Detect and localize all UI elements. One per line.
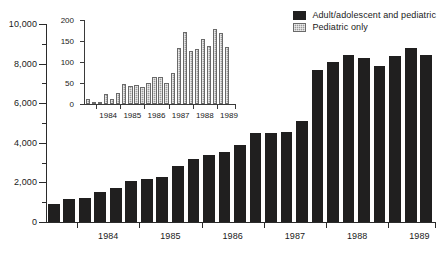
x-year-label: 1984 (98, 231, 118, 241)
y-tick-label: 6,000 (14, 98, 37, 108)
inset-x-tick (144, 105, 145, 109)
y-tick-major (39, 103, 46, 104)
main-bar-cell (248, 24, 264, 222)
legend-item: Pediatric only (293, 22, 436, 32)
inset-x-year-label: 1985 (123, 111, 141, 120)
bar (327, 62, 339, 222)
main-bar-cell (403, 24, 419, 222)
bar (312, 70, 324, 222)
bar (358, 58, 370, 222)
bar (48, 204, 60, 222)
bar (343, 55, 355, 222)
bar (265, 133, 277, 222)
x-year-label: 1986 (223, 231, 243, 241)
main-bar-cell (341, 24, 357, 222)
legend-swatch-adult-adolescent-pediatric (293, 11, 306, 20)
main-bar-cell (325, 24, 341, 222)
main-x-axis: 198419851986198719881989 (46, 222, 435, 256)
y-tick-major (39, 182, 46, 183)
bar (79, 198, 91, 222)
inset-y-tick (80, 41, 84, 42)
x-year-label: 1985 (160, 231, 180, 241)
bar (141, 179, 153, 222)
x-tick (435, 222, 436, 228)
x-tick (388, 222, 389, 228)
inset-x-year-label: 1988 (196, 111, 214, 120)
bar (250, 133, 262, 222)
inset-x-axis: 198419851986198719881989 (84, 105, 236, 123)
inset-x-year-label: 1984 (99, 111, 117, 120)
y-tick-major (39, 143, 46, 144)
bar (420, 55, 432, 222)
x-year-label: 1989 (409, 231, 429, 241)
inset-y-axis-ticks: 050100150200 (85, 20, 236, 104)
inset-y-tick-label: 50 (65, 79, 74, 88)
bar (281, 132, 293, 222)
x-tick (264, 222, 265, 228)
inset-y-tick-label: 150 (61, 37, 74, 46)
main-bar-cell (294, 24, 310, 222)
y-tick-label: 4,000 (14, 138, 37, 148)
y-tick-minor (42, 44, 46, 45)
y-tick-minor (42, 83, 46, 84)
x-tick (202, 222, 203, 228)
bar (203, 155, 215, 222)
x-tick (139, 222, 140, 228)
inset-x-year-label: 1986 (148, 111, 166, 120)
inset-y-tick (80, 83, 84, 84)
inset-x-tick (120, 105, 121, 109)
inset-y-tick-label: 0 (70, 100, 74, 109)
bar (94, 192, 106, 222)
main-bar-cell (418, 24, 434, 222)
legend-label: Adult/adolescent and pediatric (312, 10, 436, 20)
y-tick-major (39, 222, 46, 223)
x-year-label: 1988 (347, 231, 367, 241)
bar (374, 66, 386, 222)
inset-x-year-label: 1987 (172, 111, 190, 120)
inset-x-tick (96, 105, 97, 109)
inset-x-tick (193, 105, 194, 109)
y-tick-major (39, 24, 46, 25)
bar (188, 159, 200, 222)
legend: Adult/adolescent and pediatric Pediatric… (293, 10, 436, 34)
inset-chart: 050100150200 198419851986198719881989 (58, 20, 238, 124)
bar (389, 56, 401, 222)
main-bar-cell (310, 24, 326, 222)
x-year-label: 1987 (285, 231, 305, 241)
x-tick (77, 222, 78, 228)
inset-x-tick (217, 105, 218, 109)
inset-x-year-label: 1989 (220, 111, 238, 120)
legend-swatch-pediatric-only (293, 23, 306, 32)
inset-y-tick-label: 100 (61, 58, 74, 67)
bar (63, 199, 75, 222)
bar (172, 166, 184, 222)
x-tick (326, 222, 327, 228)
y-tick-label: 10,000 (9, 19, 37, 29)
inset-x-tick (169, 105, 170, 109)
y-tick-label: 8,000 (14, 59, 37, 69)
inset-y-tick (80, 20, 84, 21)
main-bar-cell (356, 24, 372, 222)
y-tick-minor (42, 202, 46, 203)
bar (234, 145, 246, 222)
bar (110, 188, 122, 222)
legend-item: Adult/adolescent and pediatric (293, 10, 436, 20)
bar (125, 181, 137, 222)
inset-y-tick (80, 62, 84, 63)
inset-y-tick-label: 200 (61, 16, 74, 25)
main-bar-cell (372, 24, 388, 222)
chart-figure: 02,0004,0006,0008,00010,000 198419851986… (0, 0, 442, 258)
bar (219, 152, 231, 222)
legend-label: Pediatric only (312, 22, 367, 32)
y-tick-minor (42, 123, 46, 124)
y-tick-label: 2,000 (14, 177, 37, 187)
main-bar-cell (279, 24, 295, 222)
y-tick-label: 0 (32, 217, 37, 227)
bar (296, 121, 308, 222)
y-tick-minor (42, 163, 46, 164)
main-bar-cell (263, 24, 279, 222)
bar (156, 177, 168, 222)
bar (405, 48, 417, 222)
y-tick-major (39, 64, 46, 65)
inset-x-tick (235, 105, 236, 109)
